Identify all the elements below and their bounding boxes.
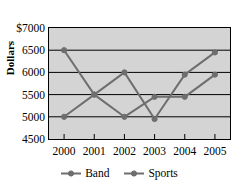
y-axis-tick-label: 5500 bbox=[22, 90, 45, 100]
data-point-band bbox=[152, 94, 157, 99]
series-line-band bbox=[64, 50, 215, 117]
legend-marker-icon bbox=[60, 169, 82, 178]
data-point-band bbox=[122, 114, 127, 119]
legend-item-band[interactable]: Band bbox=[60, 167, 109, 179]
y-axis-tick-label: 4500 bbox=[22, 134, 45, 144]
chart-legend: BandSports bbox=[0, 163, 238, 183]
data-point-sports bbox=[212, 50, 217, 55]
data-point-sports bbox=[122, 70, 127, 75]
x-axis-tick-label: 2005 bbox=[203, 145, 226, 157]
x-axis-tick-label: 2000 bbox=[53, 145, 76, 157]
x-axis-tick-label: 2004 bbox=[173, 145, 196, 157]
plot-area bbox=[48, 27, 231, 140]
data-point-band bbox=[212, 72, 217, 77]
y-axis-tick-label: 6000 bbox=[22, 67, 45, 77]
line-chart: Dollars $700065006000550050004500 200020… bbox=[0, 0, 238, 187]
y-axis-tick-label: $7000 bbox=[16, 23, 45, 33]
y-axis-tick-label: 5000 bbox=[22, 112, 45, 122]
data-point-sports bbox=[61, 114, 66, 119]
y-axis-tick-labels: $700065006000550050004500 bbox=[0, 0, 45, 187]
legend-label: Band bbox=[85, 167, 109, 179]
legend-label: Sports bbox=[148, 167, 177, 179]
legend-item-sports[interactable]: Sports bbox=[123, 167, 177, 179]
x-axis-tick-label: 2003 bbox=[143, 145, 166, 157]
legend-marker-icon bbox=[123, 169, 145, 178]
data-point-sports bbox=[182, 72, 187, 77]
x-axis-tick-labels: 200020012002200320042005 bbox=[48, 142, 231, 158]
data-point-band bbox=[61, 48, 66, 53]
x-axis-tick-label: 2002 bbox=[113, 145, 136, 157]
series-line-sports bbox=[64, 52, 215, 119]
y-axis-tick-label: 6500 bbox=[22, 45, 45, 55]
plot-svg bbox=[49, 28, 230, 139]
data-point-band bbox=[182, 94, 187, 99]
x-axis-tick-label: 2001 bbox=[83, 145, 106, 157]
data-point-sports bbox=[92, 92, 97, 97]
data-point-sports bbox=[152, 116, 157, 121]
